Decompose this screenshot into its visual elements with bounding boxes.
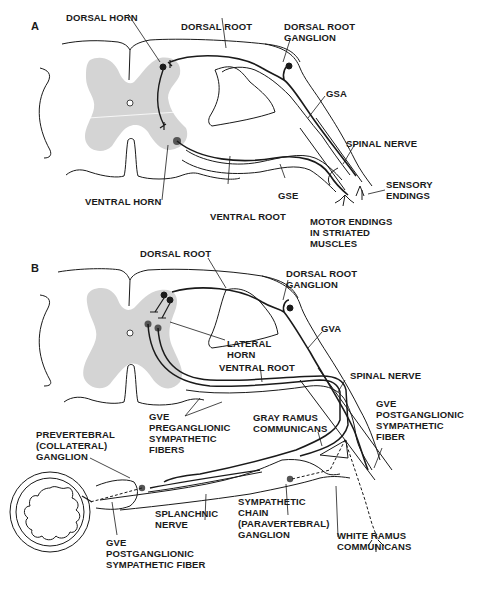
label-spinal-nerve-b: SPINAL NERVE [350,370,421,381]
gut-mucosa [24,487,79,540]
label-prevertebral-ganglion: PREVERTEBRAL (COLLATERAL) GANGLION [36,429,115,462]
gse-fiber [177,141,348,195]
drg-cell-body-a [286,63,292,69]
motor-endings-a [335,195,354,206]
label-splanchnic-nerve: SPLANCHNIC NERVE [155,508,218,530]
label-gse: GSE [278,190,298,201]
gray-matter-a [85,58,187,151]
sensory-endings-a [356,186,364,200]
label-gray-ramus: GRAY RAMUS COMMUNICANS [253,412,327,434]
postganglionic-gray-ramus [292,440,345,479]
label-sympathetic-chain: SYMPATHETIC CHAIN (PARAVERTEBRAL) GANGLI… [238,496,329,540]
label-dorsal-root-ganglion-b: DORSAL ROOT GANGLION [286,268,357,290]
central-canal-b [127,330,133,336]
label-gve-postganglionic-left: GVE POSTGANGLIONIC SYMPATHETIC FIBER [106,537,206,570]
label-gsa: GSA [326,88,347,99]
label-ventral-root-b: VENTRAL ROOT [219,362,295,373]
label-sensory-endings: SENSORY ENDINGS [386,179,433,201]
gray-matter-b [83,288,182,388]
label-gve-preganglionic: GVE PREGANGLIONIC SYMPATHETIC FIBERS [149,411,231,455]
label-dorsal-horn-a: DORSAL HORN [66,12,138,23]
spinal-nerve-walls [300,118,362,190]
central-canal-a [127,100,133,106]
label-lateral-horn: LATERAL HORN [227,338,271,360]
postganglionic-right [345,440,378,540]
label-ventral-horn: VENTRAL HORN [85,196,162,207]
ventral-root-lower [182,160,336,192]
drg-cell-body-b [287,305,293,311]
label-dorsal-root-ganglion-a: DORSAL ROOT GANGLION [284,21,355,43]
label-motor-endings: MOTOR ENDINGS IN STRIATED MUSCLES [310,216,392,249]
nerve-sheath [328,168,338,185]
label-gve-postganglionic-right: GVE POSTGANGLIONIC SYMPATHETIC FIBER [376,398,464,442]
panel-letter-b: B [31,262,39,274]
label-white-ramus: WHITE RAMUS COMMUNICANS [337,530,411,552]
label-gva: GVA [321,323,341,334]
label-dorsal-root-a: DORSAL ROOT [181,21,252,32]
label-ventral-root-a: VENTRAL ROOT [210,211,286,222]
label-spinal-nerve-a: SPINAL NERVE [346,138,417,149]
cord-left-side [39,68,51,158]
label-dorsal-root-b: DORSAL ROOT [140,248,211,259]
panel-letter-a: A [31,20,39,32]
dorsal-septum [129,50,130,80]
dorsal-horn-cell [160,64,166,70]
